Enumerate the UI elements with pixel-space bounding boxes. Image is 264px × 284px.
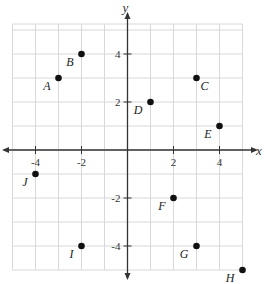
point-label-h: H [225, 271, 236, 284]
point-d [147, 99, 154, 106]
x-tick-label: 2 [171, 156, 177, 168]
point-label-d: D [133, 103, 143, 117]
point-a [55, 75, 62, 82]
point-f [170, 195, 177, 202]
y-axis-label: y [121, 0, 129, 15]
point-j [32, 171, 39, 178]
y-tick-label: 4 [115, 48, 121, 60]
point-h [239, 267, 246, 274]
x-axis-left-arrow [2, 147, 9, 153]
y-axis-bottom-arrow [125, 273, 131, 280]
point-label-f: F [157, 199, 166, 213]
point-label-c: C [201, 79, 210, 93]
x-axis-label: x [255, 143, 262, 158]
point-label-i: I [69, 247, 75, 261]
point-label-g: G [180, 247, 189, 261]
point-i [78, 243, 85, 250]
coordinate-plane: -4-22442-2-4 ABCDEFGHIJ x y [0, 0, 264, 284]
point-c [193, 75, 200, 82]
x-tick-label: -4 [31, 156, 41, 168]
x-tick-label: -2 [77, 156, 86, 168]
point-label-e: E [203, 127, 212, 141]
point-label-j: J [22, 175, 28, 189]
points: ABCDEFGHIJ [22, 51, 246, 284]
y-tick-label: 2 [115, 96, 121, 108]
point-e [216, 123, 223, 130]
point-b [78, 51, 85, 58]
point-label-b: B [66, 55, 74, 69]
y-tick-label: -4 [111, 240, 121, 252]
point-g [193, 243, 200, 250]
y-tick-label: -2 [111, 192, 120, 204]
point-label-a: A [42, 79, 51, 93]
x-tick-label: 4 [217, 156, 223, 168]
